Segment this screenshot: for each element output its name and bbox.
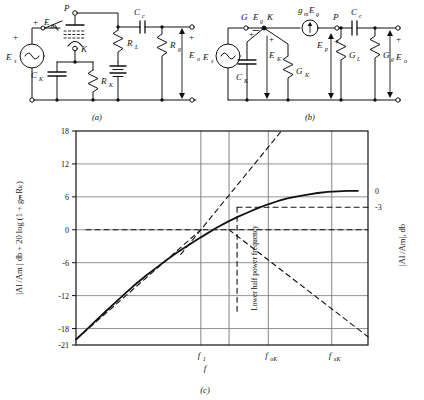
label-p-b: P [332,12,339,22]
caption-c: (c) [200,385,210,395]
label-es-b: E [202,52,209,62]
label-gm-b: g [298,5,303,15]
dot-gg-top-b [373,26,376,29]
xtick-label: f1 [198,350,206,362]
ytick-label: -6 [62,259,69,268]
label-plus-ek-b: + [269,34,274,44]
label-cc-a: C [134,7,141,17]
series-low-frequency-asymptote [76,230,201,340]
circuit-b [216,20,400,102]
rl-symbol-a [113,30,123,62]
dot-p-gl-b [339,26,342,29]
label-es-sub-b: s [211,58,214,64]
eo-arrow-head-top-b [387,30,393,36]
label-rk-a: R [100,76,107,86]
dot-cathode-node-a [73,60,76,63]
label-plus-eg-a: + [33,17,38,27]
label-k-b: K [266,12,274,22]
label-rg-a: R [169,40,176,50]
label-ck-b: C [236,72,243,82]
gm-arrow-head-b [308,22,313,26]
terminal-in-bottom-a [30,98,34,102]
terminal-out-top-a [190,25,194,29]
half-power-annotation: Lower half power frequency [250,225,259,311]
eo-arrow-head-top-a [179,28,185,34]
tube-cathode-a [68,42,82,47]
label-es-a: E [5,52,12,62]
dot-ck-gnd-a [55,98,58,101]
ytick-label: 18 [61,127,69,136]
label-ek-sub-b: K [276,56,282,62]
plot-frame [76,131,368,345]
wire-src-top-b [228,28,243,44]
label-plus-eg-b: + [249,29,254,39]
label-ck-sub-a: K [38,76,44,82]
circuit-a-labels: E s + + E g P K C K R K R L C c R g + E … [5,3,200,122]
x-axis-title: f [204,363,208,373]
terminal-plate-a [73,11,78,16]
gg-symbol-b [370,28,380,100]
label-p-a: P [63,3,70,13]
terminal-out-bottom-b [396,98,400,102]
right-axis-label: -3 [375,203,382,212]
eo-arrow-head-bot-a [179,93,185,99]
rk-symbol-a [88,70,98,100]
tube-grid-a [64,31,84,38]
label-ck-a: C [31,70,38,80]
label-cc-sub-b: c [359,13,362,19]
ytick-label: -12 [58,292,69,301]
label-eo-b: E [395,52,402,62]
ytick-label: 0 [65,226,69,235]
series-rising-steep-asymptote [181,131,282,254]
dot-gk-gnd-b [286,98,289,101]
caption-b: (b) [305,112,315,122]
dot-ck-gnd-b [245,98,248,101]
label-rk-sub-a: K [108,82,114,88]
wire-plate-to-rl-a [78,13,119,30]
svg-text:f: f [198,350,202,360]
sine-glyph-b [221,53,235,59]
terminal-g-b [244,26,248,30]
label-gm-eg-sub-b: g [316,11,319,17]
label-rl-sub-a: L [134,44,139,50]
chart-series [76,131,368,340]
ek-arrow-head-b [264,93,270,99]
svg-text:xK: xK [333,356,342,362]
label-ek-b: E [268,50,275,60]
ytick-label: -21 [58,341,69,350]
figure-container: E s + + E g P K C K R K R L C c R g + E … [0,0,424,400]
caption-a: (a) [92,112,102,122]
svg-text:f: f [329,350,333,360]
svg-text:1: 1 [203,356,206,362]
label-gl-sub-b: L [356,56,361,62]
label-gk-b: G [296,66,303,76]
label-eo-sub-a: o [197,56,200,62]
label-k-a: K [80,44,88,54]
ytick-label: -18 [58,325,69,334]
ep-arrow-head-bot-b [328,93,334,99]
rg-symbol-a [157,27,167,100]
label-ck-sub-b: K [243,78,249,84]
chart-c: 181260-6-12-18-21 f1foKfxK 0-3 |Al /Am |… [14,127,407,395]
label-eo-sub-b: o [404,58,407,64]
series-actual-response [76,191,358,340]
label-plus-ep-b: + [334,36,339,46]
battery-symbol-a [110,66,126,77]
wire-src-top-a [32,28,60,44]
label-g-b: G [241,12,248,22]
right-axis-label: 0 [375,187,379,196]
chart-right-labels: 0-3 [375,187,382,212]
label-eg-a: E [43,17,50,27]
label-es-sub-a: s [14,58,17,64]
figure-svg: E s + + E g P K C K R K R L C c R g + E … [0,0,424,400]
chart-gridlines [76,131,368,345]
chart-ytick-labels: 181260-6-12-18-21 [58,127,76,350]
wire-k-to-gk-b [264,28,288,56]
eo-arrow-head-bot-b [387,92,393,98]
label-eg-sub-a: g [51,23,54,29]
label-eo-a: E [188,50,195,60]
dot-out-node-a [160,25,163,28]
dot-plate-node-a [116,25,119,28]
ytick-label: 6 [65,193,69,202]
xtick-label: fxK [329,350,342,362]
